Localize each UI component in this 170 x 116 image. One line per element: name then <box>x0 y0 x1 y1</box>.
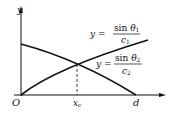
xc-label: xc <box>73 98 82 108</box>
y-axis-label: y <box>16 4 23 15</box>
origin-label: O <box>12 97 20 108</box>
d-label: d <box>133 97 139 108</box>
eq2-lhs: y = <box>95 59 112 69</box>
curve-decreasing <box>21 44 136 95</box>
eq1-lhs: y = <box>89 29 106 39</box>
eq1-numerator: sin θ1 <box>114 23 139 33</box>
diagram: y O xc d y = sin θ1 c1 y = sin θ2 c2 <box>0 0 170 116</box>
eq2-numerator: sin θ2 <box>115 53 141 63</box>
eq1-denominator: c1 <box>121 35 130 45</box>
x-axis-arrow-icon <box>159 93 166 97</box>
eq2-denominator: c2 <box>122 66 131 76</box>
